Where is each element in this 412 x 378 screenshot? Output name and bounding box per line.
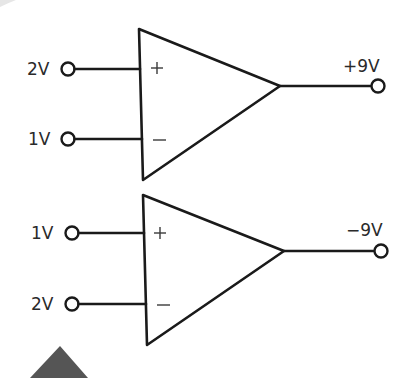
opamp-top-output: +9V xyxy=(280,56,385,93)
opamp-top-triangle xyxy=(139,29,280,180)
input-terminal-icon xyxy=(62,63,75,76)
diagram-canvas: 2V 1V +9V 1V xyxy=(0,0,412,378)
input-terminal-icon xyxy=(66,227,79,240)
output-voltage-label: +9V xyxy=(343,56,380,76)
output-terminal-icon xyxy=(375,245,388,258)
opamp-bottom-inverting-input: 2V xyxy=(31,294,170,314)
opamp-bottom-output: −9V xyxy=(284,220,388,258)
input-voltage-label: 1V xyxy=(31,223,54,243)
opamp-bottom-noninverting-input: 1V xyxy=(31,223,166,243)
plus-sign-icon xyxy=(154,227,166,239)
input-terminal-icon xyxy=(66,298,79,311)
input-terminal-icon xyxy=(62,133,75,146)
input-voltage-label: 2V xyxy=(31,294,54,314)
corner-artifact xyxy=(0,0,16,7)
gray-triangle-marker-icon xyxy=(30,346,88,378)
opamp-bottom: 1V 2V −9V xyxy=(31,195,388,345)
input-voltage-label: 2V xyxy=(27,59,50,79)
opamp-top-inverting-input: 1V xyxy=(28,129,166,149)
opamp-top: 2V 1V +9V xyxy=(27,29,385,180)
output-voltage-label: −9V xyxy=(346,220,383,240)
plus-sign-icon xyxy=(151,62,163,74)
op-amp-diagram: 2V 1V +9V 1V xyxy=(0,0,412,378)
input-voltage-label: 1V xyxy=(28,129,51,149)
opamp-top-noninverting-input: 2V xyxy=(27,59,163,79)
output-terminal-icon xyxy=(372,80,385,93)
opamp-bottom-triangle xyxy=(143,195,284,345)
